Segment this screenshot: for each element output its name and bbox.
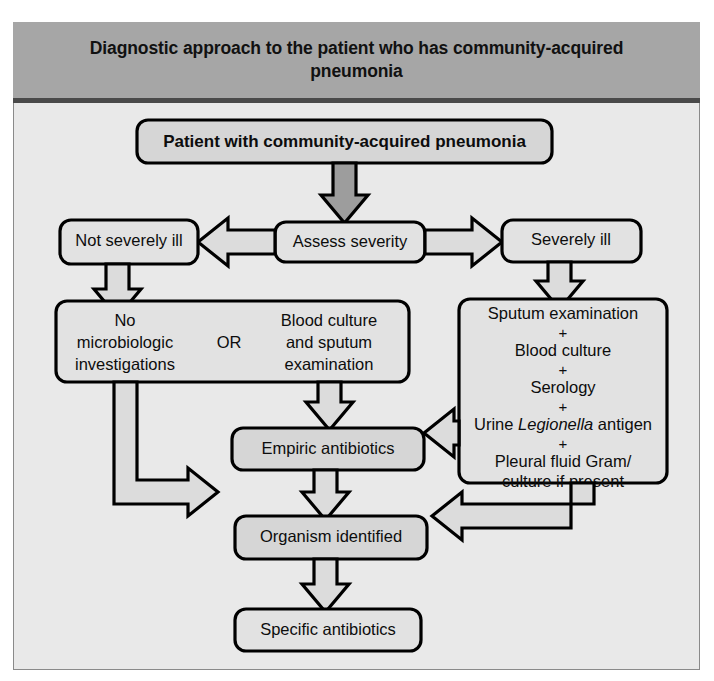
arrow-assess-to-not-severe bbox=[198, 218, 275, 266]
arrow-mild-workup-to-empiric bbox=[306, 382, 353, 430]
node-assess-severity[interactable]: Assess severity bbox=[275, 222, 425, 262]
severe-workup-line6: culture if present bbox=[502, 472, 624, 490]
mild-workup-or-connector: OR bbox=[217, 333, 242, 351]
node-severely-ill-label: Severely ill bbox=[531, 230, 611, 248]
severe-workup-line3: Serology bbox=[530, 378, 596, 396]
arrow-patient-to-assess bbox=[321, 163, 368, 223]
node-assess-severity-label: Assess severity bbox=[293, 232, 408, 250]
arrow-severe-workup-to-empiric bbox=[424, 409, 459, 457]
mild-workup-option-a-line1: No bbox=[114, 311, 135, 329]
arrow-severe-workup-to-organism bbox=[432, 483, 594, 540]
arrow-empiric-to-organism bbox=[302, 470, 349, 520]
node-organism-identified[interactable]: Organism identified bbox=[235, 516, 427, 559]
severe-workup-line1: Sputum examination bbox=[488, 304, 638, 322]
node-patient-cap-label: Patient with community-acquired pneumoni… bbox=[163, 132, 526, 151]
mild-workup-option-b-line1: Blood culture bbox=[281, 311, 377, 329]
flowchart-area: Patient with community-acquired pneumoni… bbox=[13, 103, 700, 670]
severe-workup-line5: Pleural fluid Gram/ bbox=[495, 452, 632, 470]
mild-workup-option-b-line2: and sputum bbox=[286, 333, 372, 351]
node-not-severely-ill[interactable]: Not severely ill bbox=[60, 220, 198, 264]
node-not-severely-ill-label: Not severely ill bbox=[75, 231, 182, 249]
severe-workup-line2: Blood culture bbox=[515, 341, 611, 359]
node-empiric-antibiotics[interactable]: Empiric antibiotics bbox=[232, 428, 424, 470]
severe-workup-plus3: + bbox=[559, 398, 568, 415]
node-specific-antibiotics-label: Specific antibiotics bbox=[260, 620, 396, 638]
figure-page: Diagnostic approach to the patient who h… bbox=[0, 0, 714, 681]
node-severe-workup[interactable]: Sputum examination + Blood culture + Ser… bbox=[459, 299, 667, 490]
node-mild-workup[interactable]: No microbiologic investigations OR Blood… bbox=[56, 301, 409, 382]
node-empiric-antibiotics-label: Empiric antibiotics bbox=[262, 439, 395, 457]
severe-workup-plus4: + bbox=[559, 435, 568, 452]
mild-workup-option-a-line2: microbiologic bbox=[77, 333, 173, 351]
arrow-mild-workup-to-organism bbox=[114, 382, 218, 516]
severe-workup-line4: Urine Legionella antigen bbox=[474, 415, 652, 433]
severe-workup-line4-italic: Legionella bbox=[518, 415, 593, 433]
severe-workup-plus2: + bbox=[559, 361, 568, 378]
mild-workup-option-a-line3: investigations bbox=[75, 355, 175, 373]
node-severely-ill[interactable]: Severely ill bbox=[502, 220, 641, 262]
figure-title: Diagnostic approach to the patient who h… bbox=[13, 37, 700, 84]
severe-workup-line4-post: antigen bbox=[593, 415, 652, 433]
node-specific-antibiotics[interactable]: Specific antibiotics bbox=[235, 609, 421, 651]
arrow-organism-to-specific bbox=[302, 559, 349, 612]
node-patient-cap[interactable]: Patient with community-acquired pneumoni… bbox=[137, 120, 552, 163]
node-organism-identified-label: Organism identified bbox=[260, 527, 402, 545]
mild-workup-option-b-line3: examination bbox=[285, 355, 374, 373]
severe-workup-plus1: + bbox=[559, 324, 568, 341]
figure-header-band: Diagnostic approach to the patient who h… bbox=[13, 22, 700, 103]
severe-workup-line4-pre: Urine bbox=[474, 415, 518, 433]
arrow-assess-to-severe bbox=[425, 218, 502, 266]
flowchart-svg: Patient with community-acquired pneumoni… bbox=[13, 103, 700, 670]
